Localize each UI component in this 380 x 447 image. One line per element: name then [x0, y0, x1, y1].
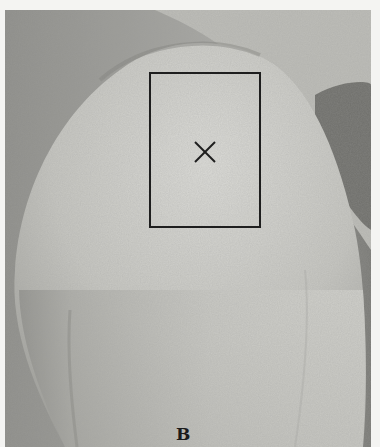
- panel-label: B: [176, 424, 190, 444]
- x-mark-icon: [193, 140, 217, 164]
- clinical-photo: B: [5, 10, 371, 447]
